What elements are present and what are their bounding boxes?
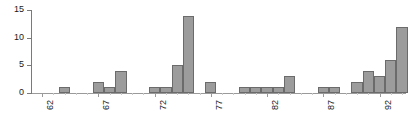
x-axis-tick-label: 82 <box>271 100 280 110</box>
histogram-bar <box>396 27 407 93</box>
x-axis-minor-tick <box>368 93 369 95</box>
x-axis-minor-tick <box>222 93 223 95</box>
x-axis-minor-tick <box>65 93 66 95</box>
histogram-bar <box>363 71 374 93</box>
histogram-bar <box>93 82 104 93</box>
x-axis-minor-tick <box>177 93 178 95</box>
plot-area <box>31 10 402 93</box>
y-axis-tick <box>27 10 32 11</box>
x-axis-minor-tick <box>110 93 111 95</box>
x-axis-tick <box>42 93 43 97</box>
histogram-bar <box>172 65 183 93</box>
x-axis-tick-label: 72 <box>159 100 168 110</box>
x-axis-minor-tick <box>245 93 246 95</box>
x-axis-minor-tick <box>188 93 189 95</box>
histogram-bar <box>183 16 194 93</box>
x-axis-minor-tick <box>132 93 133 95</box>
y-axis-labels: 051015 <box>0 0 24 131</box>
x-axis-minor-tick <box>357 93 358 95</box>
x-axis-minor-tick <box>301 93 302 95</box>
y-axis-tick <box>27 93 32 94</box>
x-axis-tick <box>211 93 212 97</box>
x-axis-minor-tick <box>166 93 167 95</box>
x-axis-minor-tick <box>53 93 54 95</box>
x-axis-tick <box>155 93 156 97</box>
y-axis-tick-label: 10 <box>14 33 24 42</box>
x-axis-tick-label: 62 <box>46 100 55 110</box>
x-axis-minor-tick <box>346 93 347 95</box>
x-axis-minor-tick <box>87 93 88 95</box>
x-axis-minor-tick <box>335 93 336 95</box>
x-axis-minor-tick <box>278 93 279 95</box>
x-axis-tick-label: 87 <box>327 100 336 110</box>
x-axis-minor-tick <box>233 93 234 95</box>
histogram-bar <box>374 76 385 93</box>
x-axis-tick-label: 67 <box>102 100 111 110</box>
x-axis-tick <box>98 93 99 97</box>
x-axis-minor-tick <box>200 93 201 95</box>
x-axis-tick <box>380 93 381 97</box>
histogram-bar <box>284 76 295 93</box>
x-axis-minor-tick <box>290 93 291 95</box>
x-axis-tick-label: 77 <box>215 100 224 110</box>
x-axis-minor-tick <box>256 93 257 95</box>
histogram-bar <box>351 82 362 93</box>
x-axis-tick <box>267 93 268 97</box>
histogram-chart: 051015 62677277828792 <box>0 0 410 131</box>
y-axis-tick-label: 5 <box>19 60 24 69</box>
histogram-bar <box>385 60 396 93</box>
x-axis-minor-tick <box>143 93 144 95</box>
x-axis-minor-tick <box>76 93 77 95</box>
x-axis-minor-tick <box>121 93 122 95</box>
y-axis-tick-label: 0 <box>19 88 24 97</box>
x-axis-tick <box>323 93 324 97</box>
x-axis-minor-tick <box>312 93 313 95</box>
x-axis-minor-tick <box>402 93 403 95</box>
x-axis-minor-tick <box>391 93 392 95</box>
y-axis-tick <box>27 65 32 66</box>
histogram-bar <box>115 71 126 93</box>
histogram-bar <box>205 82 216 93</box>
x-axis-tick-label: 92 <box>384 100 393 110</box>
y-axis-tick <box>27 38 32 39</box>
y-axis-tick-label: 15 <box>14 5 24 14</box>
